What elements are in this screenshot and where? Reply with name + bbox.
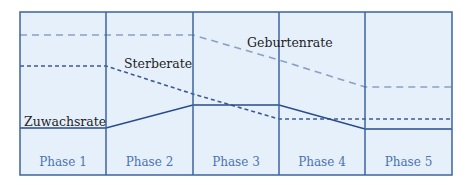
geburtenrate-label: Geburtenrate [247, 35, 333, 50]
phase-5-label: Phase 5 [385, 155, 433, 169]
sterberate-label: Sterberate [124, 56, 192, 71]
phase-4-label: Phase 4 [298, 155, 346, 169]
phase-3-label: Phase 3 [212, 155, 260, 169]
phase-1-label: Phase 1 [39, 155, 87, 169]
demographic-transition-chart: Sterberate Geburtenrate Zuwachsrate Phas… [0, 0, 470, 185]
zuwachsrate-label: Zuwachsrate [24, 114, 106, 129]
phase-2-label: Phase 2 [126, 155, 174, 169]
plot-background [20, 12, 452, 175]
